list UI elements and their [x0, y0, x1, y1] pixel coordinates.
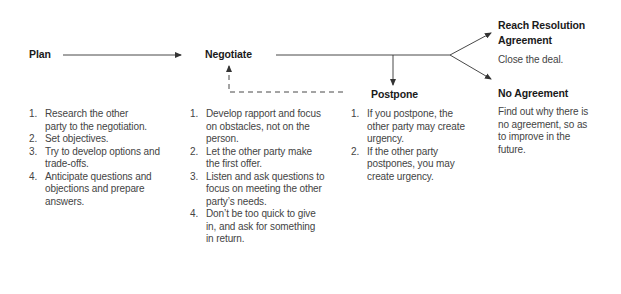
postpone-feedback-dashed — [229, 66, 343, 92]
list-item: 1.Develop rapport and focuson obstacles,… — [190, 108, 365, 146]
step-number: 2. — [351, 146, 359, 159]
step-number: 4. — [190, 208, 198, 221]
step-line: in return. — [206, 233, 365, 246]
step-line: Don’t be too quick to give — [206, 208, 365, 221]
list-item: 3.Listen and ask questions tofocus on me… — [190, 171, 365, 209]
list-item: 2.If the other partypostpones, you maycr… — [351, 146, 491, 184]
step-line: party to the negotiation. — [45, 121, 199, 134]
step-line: the first offer. — [206, 158, 365, 171]
step-number: 2. — [29, 133, 37, 146]
step-line: create urgency. — [367, 171, 491, 184]
step-line: other party may create — [367, 121, 491, 134]
step-number: 2. — [190, 146, 198, 159]
stage-no-agreement-title: No Agreement — [498, 87, 568, 99]
step-number: 1. — [190, 108, 198, 121]
list-item: 4.Anticipate questions andobjections and… — [29, 171, 199, 209]
step-line: Try to develop options and — [45, 146, 199, 159]
step-line: in, and ask for something — [206, 221, 365, 234]
step-line: Set objectives. — [45, 133, 199, 146]
stage-reach-resolution-title: Reach Resolution Agreement — [498, 18, 585, 48]
stage-plan-title: Plan — [29, 48, 51, 60]
step-number: 1. — [29, 108, 37, 121]
desc-line: no agreement, so as — [498, 119, 588, 132]
step-line: If you postpone, the — [367, 108, 491, 121]
list-item: 1.Research the otherparty to the negotia… — [29, 108, 199, 133]
plan-steps-list: 1.Research the otherparty to the negotia… — [29, 108, 199, 208]
list-item: 2.Let the other party makethe first offe… — [190, 146, 365, 171]
postpone-steps-list: 1.If you postpone, theother party may cr… — [351, 108, 491, 183]
desc-line: Find out why there is — [498, 106, 588, 119]
step-line: urgency. — [367, 133, 491, 146]
no-agreement-description: Find out why there is no agreement, so a… — [498, 106, 588, 156]
step-line: on obstacles, not on the — [206, 121, 365, 134]
stage-negotiate-title: Negotiate — [205, 48, 252, 60]
desc-line: future. — [498, 144, 588, 157]
step-number: 3. — [29, 146, 37, 159]
list-item: 4.Don’t be too quick to givein, and ask … — [190, 208, 365, 246]
reach-resolution-line2: Agreement — [498, 33, 585, 48]
list-item: 1.If you postpone, theother party may cr… — [351, 108, 491, 146]
step-line: person. — [206, 133, 365, 146]
step-line: objections and prepare — [45, 183, 199, 196]
step-number: 3. — [190, 171, 198, 184]
reach-resolution-description: Close the deal. — [498, 54, 563, 67]
step-line: Research the other — [45, 108, 199, 121]
step-line: focus on meeting the other — [206, 183, 365, 196]
step-number: 4. — [29, 171, 37, 184]
stage-postpone-title: Postpone — [371, 88, 418, 100]
step-line: postpones, you may — [367, 158, 491, 171]
step-line: Develop rapport and focus — [206, 108, 365, 121]
desc-line: to improve in the — [498, 131, 588, 144]
list-item: 3.Try to develop options andtrade-offs. — [29, 146, 199, 171]
step-line: Anticipate questions and — [45, 171, 199, 184]
list-item: 2.Set objectives. — [29, 133, 199, 146]
step-line: answers. — [45, 196, 199, 209]
step-line: party’s needs. — [206, 196, 365, 209]
step-number: 1. — [351, 108, 359, 121]
step-line: trade-offs. — [45, 158, 199, 171]
step-line: Listen and ask questions to — [206, 171, 365, 184]
reach-resolution-line1: Reach Resolution — [498, 18, 585, 33]
negotiate-steps-list: 1.Develop rapport and focuson obstacles,… — [190, 108, 365, 246]
step-line: Let the other party make — [206, 146, 365, 159]
to-agreement-arrow — [450, 33, 491, 55]
step-line: If the other party — [367, 146, 491, 159]
to-no-agreement-arrow — [450, 55, 491, 79]
